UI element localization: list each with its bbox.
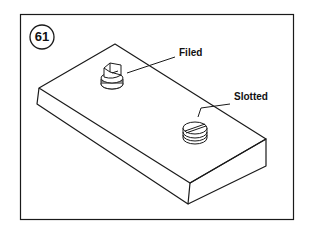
label-filed: Filed [179,47,202,58]
label-slotted: Slotted [234,91,268,102]
block [37,44,266,204]
figure-number: 61 [30,29,54,44]
slotted-screw-icon [183,122,207,144]
